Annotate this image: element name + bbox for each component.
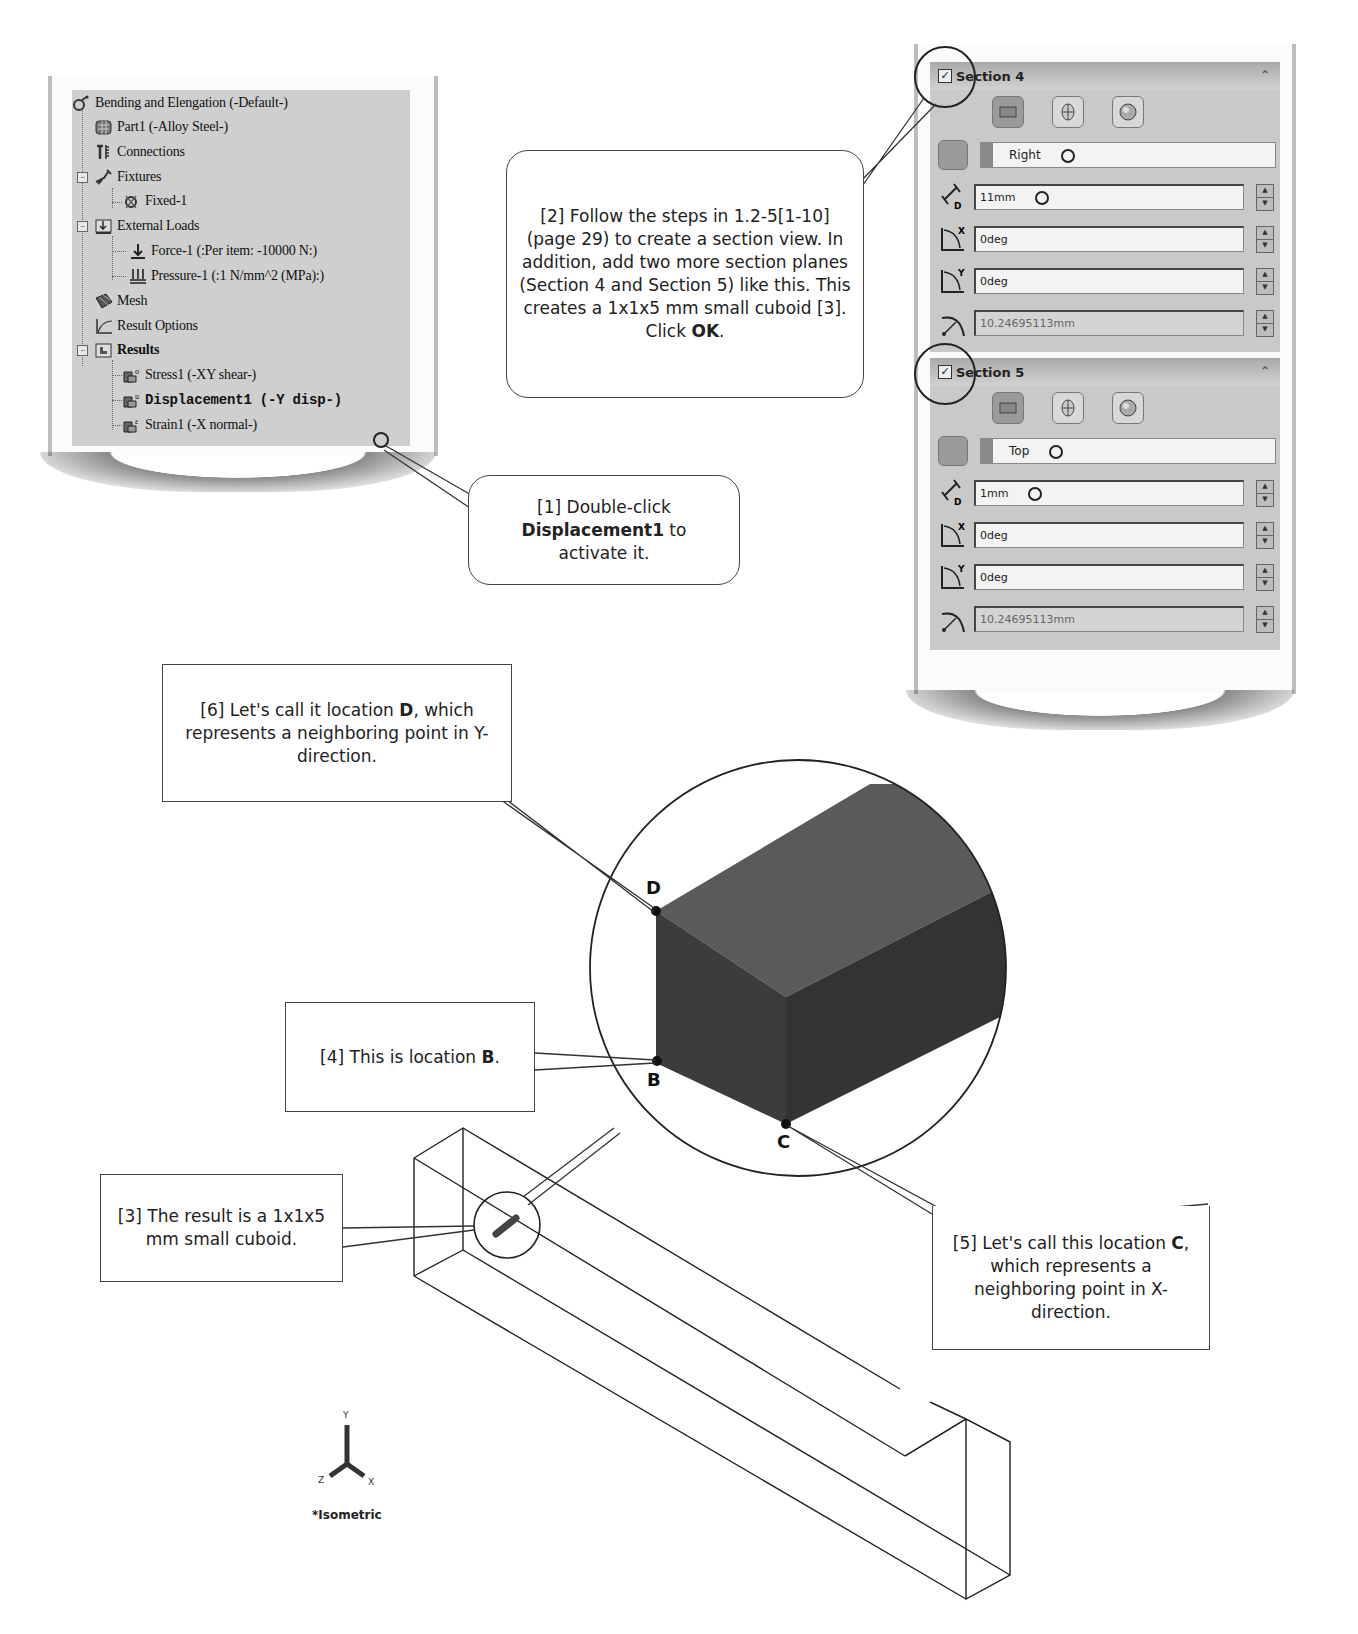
- tree-highlight-ring: [374, 433, 388, 447]
- axis-x-label: X: [368, 1477, 374, 1487]
- point-b-label: B: [647, 1069, 661, 1090]
- point-c-label: C: [777, 1131, 790, 1152]
- callout-step-4: [4] This is location B.: [285, 1002, 535, 1112]
- view-orientation-label: *Isometric: [312, 1508, 382, 1522]
- axis-y-label: Y: [343, 1410, 349, 1420]
- axis-triad-icon: [330, 1425, 364, 1476]
- zoomed-cuboid-view: [656, 784, 1040, 1124]
- axis-z-label: Z: [318, 1475, 324, 1485]
- callout-step-6: [6] Let's call it location D, which repr…: [162, 664, 512, 802]
- callout-step-5: [5] Let's call this location C, which re…: [932, 1206, 1210, 1350]
- callout-step-3: [3] The result is a 1x1x5 mm small cuboi…: [100, 1174, 343, 1282]
- callout-step-1: [1] Double-clickDisplacement1 toactivate…: [468, 475, 740, 585]
- point-b: [652, 1056, 662, 1066]
- callout-step-2: [2] Follow the steps in 1.2-5[1-10] (pag…: [506, 150, 864, 398]
- point-d-label: D: [646, 877, 661, 898]
